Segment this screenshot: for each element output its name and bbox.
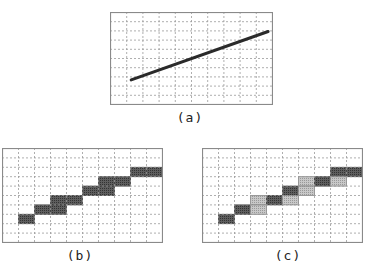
pixel-cell-dark — [147, 167, 163, 176]
pixel-cell-dark — [315, 177, 331, 186]
pixel-cell-dark — [219, 214, 235, 223]
caption-a: (a) — [160, 110, 220, 125]
pixel-cell-dark — [235, 205, 251, 214]
cropped-text-remnant — [0, 0, 368, 3]
grid-with-line — [110, 12, 273, 105]
panel-c-antialiased — [202, 148, 363, 243]
pixel-cell-dark — [51, 205, 67, 214]
pixel-cell-dark — [99, 186, 115, 195]
pixel-cell-dark — [283, 186, 299, 195]
pixel-cell-dark — [19, 214, 35, 223]
pixel-cell-light — [299, 177, 315, 186]
pixel-cell-light — [251, 196, 267, 205]
pixel-grid-aliased — [2, 148, 163, 243]
pixel-cell-dark — [115, 177, 131, 186]
pixel-cell-dark — [35, 205, 51, 214]
pixel-cell-light — [299, 186, 315, 195]
pixel-grid-antialiased — [202, 148, 363, 243]
pixel-cell-light — [251, 205, 267, 214]
pixel-cell-dark — [67, 196, 83, 205]
pixel-cell-dark — [347, 167, 363, 176]
panel-a-ideal-line — [110, 12, 273, 105]
pixel-cell-dark — [51, 196, 67, 205]
pixel-cell-light — [331, 177, 347, 186]
pixel-cell-dark — [131, 167, 147, 176]
pixel-cell-dark — [267, 196, 283, 205]
caption-b: (b) — [50, 248, 110, 263]
caption-c: (c) — [258, 248, 318, 263]
panel-b-aliased — [2, 148, 163, 243]
pixel-cell-dark — [331, 167, 347, 176]
pixel-cell-light — [283, 196, 299, 205]
pixel-cell-dark — [83, 186, 99, 195]
pixel-cell-dark — [99, 177, 115, 186]
